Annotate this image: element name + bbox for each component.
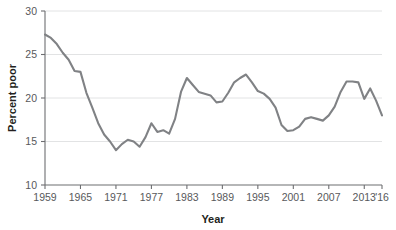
gridline-group bbox=[45, 11, 382, 142]
x-axis-tick-label: 1989 bbox=[211, 191, 235, 203]
y-axis-tick-label: 25 bbox=[25, 48, 37, 60]
poverty-rate-series-line bbox=[45, 34, 382, 150]
x-axis-tick-label: 1995 bbox=[246, 191, 270, 203]
x-axis-tick-label: 1977 bbox=[140, 191, 164, 203]
x-axis-tick-label: 1965 bbox=[69, 191, 93, 203]
y-axis-tick-label: 15 bbox=[25, 135, 37, 147]
x-axis-title: Year bbox=[201, 213, 225, 225]
y-axis-tick-label: 30 bbox=[25, 5, 37, 17]
x-axis-tick-label: 2001 bbox=[282, 191, 306, 203]
x-axis-tick-label: 1983 bbox=[175, 191, 199, 203]
x-axis-tick-label: 1959 bbox=[33, 191, 57, 203]
y-tick-group: 1015202530 bbox=[25, 5, 45, 191]
y-axis-title: Percent poor bbox=[6, 63, 18, 132]
x-axis-tick-label: 2007 bbox=[317, 191, 341, 203]
x-axis-tick-label: 2013 bbox=[353, 191, 377, 203]
y-axis-tick-label: 10 bbox=[25, 179, 37, 191]
x-axis-tick-label: '16 bbox=[375, 191, 389, 203]
x-tick-group: 1959196519711977198319891995200120072013… bbox=[33, 185, 389, 203]
chart-canvas: 1015202530 19591965197119771983198919952… bbox=[0, 0, 396, 230]
poverty-rate-line-chart: 1015202530 19591965197119771983198919952… bbox=[0, 0, 396, 230]
y-axis-tick-label: 20 bbox=[25, 92, 37, 104]
x-axis-tick-label: 1971 bbox=[104, 191, 128, 203]
